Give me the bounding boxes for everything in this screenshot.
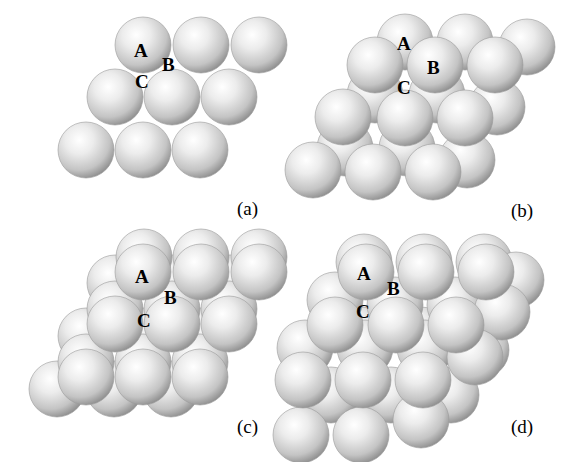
sphere	[115, 349, 171, 405]
site-label-a: A	[135, 266, 149, 287]
site-label-c: C	[135, 71, 149, 92]
site-label-c: C	[356, 301, 370, 322]
sphere	[275, 352, 331, 408]
sphere	[172, 349, 228, 405]
sphere	[368, 297, 424, 353]
sphere	[467, 37, 523, 93]
panel-a: ABC(a)	[58, 17, 287, 220]
sphere	[201, 69, 257, 125]
sphere	[144, 69, 200, 125]
panel-caption: (b)	[511, 200, 533, 222]
panel-caption: (c)	[237, 416, 258, 438]
panel-d: ABC(d)	[273, 234, 544, 462]
sphere	[395, 352, 451, 408]
sphere	[173, 17, 229, 73]
sphere	[231, 244, 287, 300]
sphere	[405, 144, 461, 200]
site-label-b: B	[164, 287, 177, 308]
site-label-a: A	[357, 263, 371, 284]
site-label-b: B	[162, 54, 175, 75]
sphere	[115, 122, 171, 178]
panel-caption: (d)	[511, 416, 533, 438]
sphere	[333, 407, 389, 462]
sphere	[347, 37, 403, 93]
sphere	[345, 144, 401, 200]
sphere	[377, 90, 433, 146]
sphere	[273, 407, 329, 462]
sphere	[201, 296, 257, 352]
site-label-b: B	[387, 278, 400, 299]
sphere	[315, 89, 371, 145]
panel-b: ABC(b)	[285, 14, 555, 222]
panel-c: ABC(c)	[29, 229, 287, 438]
sphere	[437, 90, 493, 146]
sphere	[58, 122, 114, 178]
panel-caption: (a)	[237, 198, 258, 220]
sphere	[87, 296, 143, 352]
site-label-c: C	[397, 77, 411, 98]
sphere	[231, 17, 287, 73]
sphere	[428, 297, 484, 353]
sphere	[58, 349, 114, 405]
sphere	[307, 297, 363, 353]
site-label-c: C	[137, 310, 151, 331]
sphere-packing-diagram: ABC(a) ABC(b) ABC(c) ABC(d)	[0, 0, 578, 462]
sphere	[173, 244, 229, 300]
sphere	[398, 244, 454, 300]
sphere	[335, 352, 391, 408]
site-label-a: A	[397, 33, 411, 54]
sphere	[172, 122, 228, 178]
site-label-a: A	[134, 40, 148, 61]
layer-A	[58, 17, 287, 178]
site-label-b: B	[427, 57, 440, 78]
sphere	[458, 244, 514, 300]
sphere	[285, 142, 341, 198]
